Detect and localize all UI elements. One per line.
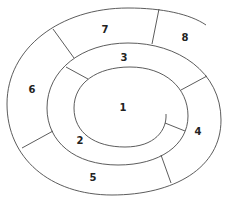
separator-3-4: [181, 76, 207, 90]
segment-label-5: 5: [90, 173, 97, 183]
segment-label-6: 6: [29, 85, 36, 95]
segment-label-2: 2: [77, 136, 84, 146]
separator-5-6: [22, 131, 53, 148]
separator-2-3: [66, 67, 88, 79]
separator-4-5: [161, 155, 171, 183]
segment-label-7: 7: [102, 25, 109, 35]
separator-6-7: [53, 29, 74, 58]
segment-label-8: 8: [182, 33, 189, 43]
segment-label-4: 4: [195, 127, 202, 137]
separator-1-2: [165, 123, 185, 131]
spiral-curve: [7, 8, 221, 195]
separator-7-8: [152, 9, 159, 44]
spiral-diagram: [0, 0, 227, 202]
segment-label-1: 1: [120, 103, 127, 113]
segment-label-3: 3: [121, 53, 128, 63]
